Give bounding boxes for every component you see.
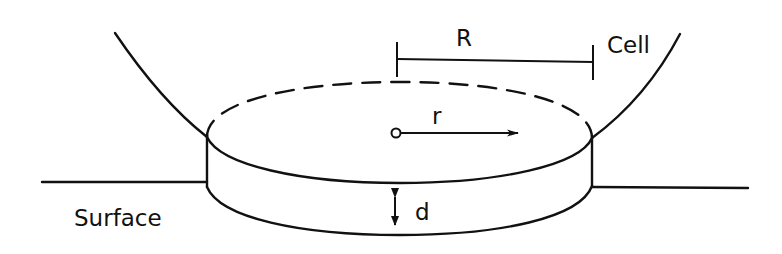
origin-point-icon	[392, 129, 401, 138]
radius-scale-bar	[397, 42, 593, 80]
label-d: d	[415, 199, 430, 225]
cell-adhesion-diagram: R Cell r d Surface	[0, 0, 782, 254]
cell-membrane-left	[115, 33, 207, 137]
contact-disc-top-front	[207, 137, 592, 183]
contact-disc-bottom-front	[207, 186, 592, 235]
surface-line-right	[592, 187, 748, 188]
label-surface: Surface	[74, 205, 162, 231]
label-R: R	[456, 25, 472, 51]
label-cell: Cell	[607, 32, 650, 58]
label-r: r	[432, 103, 442, 129]
